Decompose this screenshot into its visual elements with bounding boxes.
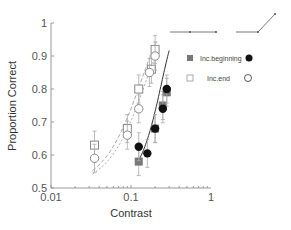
y-tick-label: 0.9 bbox=[32, 50, 47, 62]
x-tick-label: 1 bbox=[208, 191, 214, 203]
legend-dot-icon bbox=[274, 13, 276, 15]
y-tick-label: 0.7 bbox=[32, 116, 47, 128]
x-tick-label: 0.01 bbox=[40, 191, 61, 203]
open-circle-marker bbox=[145, 68, 153, 76]
open-circle-marker bbox=[123, 131, 131, 139]
filled-circle-marker bbox=[135, 143, 143, 151]
filled-circle-marker bbox=[151, 124, 159, 132]
legend-filled-square-icon bbox=[187, 55, 193, 61]
y-tick-label: 1 bbox=[41, 17, 47, 29]
open-circle-marker bbox=[135, 105, 143, 113]
legend-dot-icon bbox=[257, 31, 259, 33]
legend-filled-circle-icon bbox=[246, 55, 253, 62]
y-tick-label: 0.6 bbox=[32, 149, 47, 161]
open-square-marker bbox=[135, 85, 143, 93]
open-circle-marker bbox=[151, 52, 159, 60]
x-axis-label: Contrast bbox=[110, 207, 152, 219]
filled-circle-marker bbox=[159, 105, 167, 113]
legend-label-inc-end: Inc.end bbox=[207, 75, 230, 82]
legend-open-square-icon bbox=[187, 75, 193, 81]
filled-circle-marker bbox=[143, 149, 151, 157]
y-tick-label: 0.8 bbox=[32, 83, 47, 95]
legend-open-circle-icon bbox=[245, 75, 252, 82]
open-circle-marker bbox=[90, 154, 98, 162]
x-tick-label: 0.1 bbox=[123, 191, 138, 203]
y-axis-label: Proportion Correct bbox=[6, 61, 18, 151]
filled-circle-marker bbox=[163, 85, 171, 93]
psychometric-chart: 0.50.60.70.80.910.010.11ContrastProporti… bbox=[0, 0, 291, 230]
legend-rising-line-icon bbox=[236, 14, 275, 32]
legend-label-inc-beginning: Inc.beginning bbox=[200, 55, 242, 63]
legend-dot-icon bbox=[215, 31, 217, 33]
legend-dot-icon bbox=[189, 31, 191, 33]
